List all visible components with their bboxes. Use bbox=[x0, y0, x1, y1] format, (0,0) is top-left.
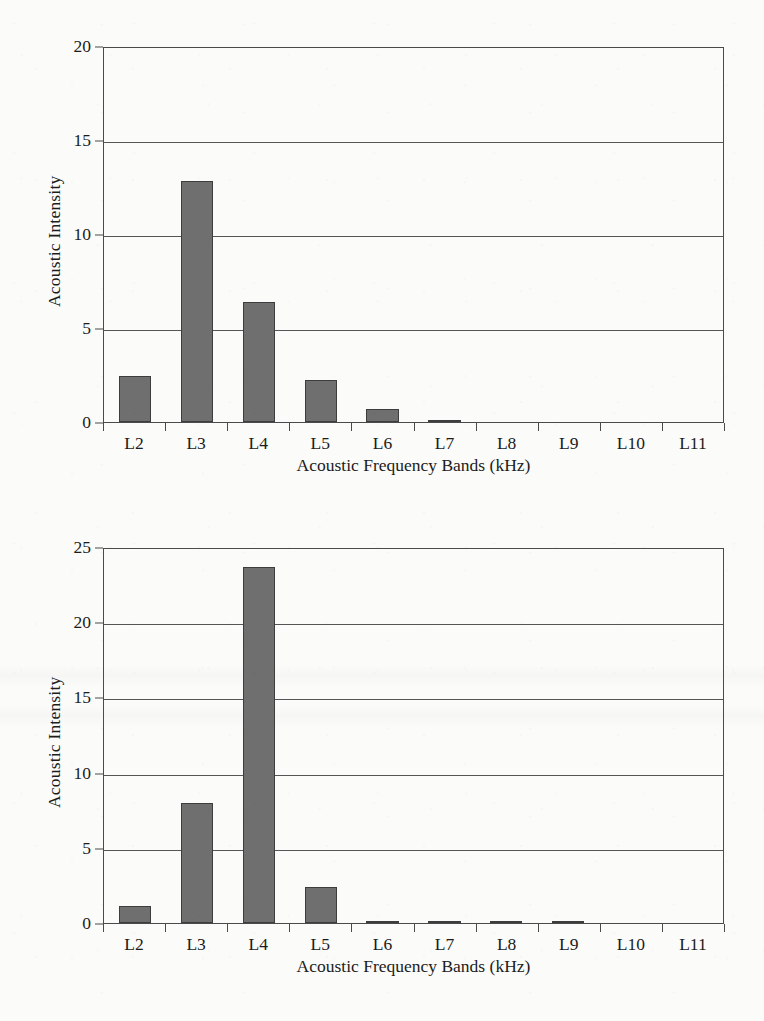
bar-l9[interactable] bbox=[552, 921, 584, 923]
bar-l3[interactable] bbox=[181, 803, 213, 923]
chart-panel-bottom: Acoustic Intensity0510152025L2L3L4L5L6L7… bbox=[0, 500, 764, 1021]
y-tick-mark bbox=[95, 47, 103, 48]
x-tick-mark bbox=[538, 924, 539, 932]
y-tick-mark bbox=[95, 698, 103, 699]
x-tick-mark bbox=[165, 924, 166, 932]
x-tick-mark bbox=[600, 423, 601, 431]
x-tick-label-l2: L2 bbox=[124, 936, 143, 954]
bar-slot bbox=[104, 549, 166, 923]
bar-slot bbox=[537, 549, 599, 923]
x-tick-mark bbox=[289, 924, 290, 932]
x-tick-label-l3: L3 bbox=[186, 435, 205, 453]
y-tick-label: 0 bbox=[82, 414, 91, 432]
x-tick-label-l4: L4 bbox=[249, 435, 268, 453]
chart-bottom: Acoustic Intensity0510152025L2L3L4L5L6L7… bbox=[0, 500, 764, 1021]
bar-slot bbox=[599, 48, 661, 422]
bar-l3[interactable] bbox=[181, 181, 213, 422]
y-axis-title: Acoustic Intensity bbox=[44, 176, 65, 307]
x-tick-label-l11: L11 bbox=[679, 936, 707, 954]
x-tick-mark bbox=[351, 423, 352, 431]
x-tick-label-l9: L9 bbox=[559, 435, 578, 453]
bar-slot bbox=[352, 48, 414, 422]
y-tick-mark bbox=[95, 141, 103, 142]
chart-panel-top: Acoustic Intensity05101520L2L3L4L5L6L7L8… bbox=[0, 0, 764, 500]
y-tick-mark bbox=[95, 773, 103, 774]
y-tick-label: 20 bbox=[74, 38, 92, 56]
x-tick-mark bbox=[538, 423, 539, 431]
y-tick-label: 5 bbox=[82, 320, 91, 338]
bar-slot bbox=[414, 549, 476, 923]
x-tick-mark bbox=[662, 423, 663, 431]
bar-slot bbox=[166, 549, 228, 923]
x-tick-label-l7: L7 bbox=[435, 435, 454, 453]
bar-l6[interactable] bbox=[366, 409, 398, 422]
x-tick-label-l7: L7 bbox=[435, 936, 454, 954]
bars-layer bbox=[104, 549, 723, 923]
x-tick-mark bbox=[600, 924, 601, 932]
bar-slot bbox=[104, 48, 166, 422]
bar-l4[interactable] bbox=[243, 567, 275, 923]
bar-slot bbox=[599, 549, 661, 923]
y-tick-mark bbox=[95, 848, 103, 849]
bar-slot bbox=[414, 48, 476, 422]
bar-l7[interactable] bbox=[428, 420, 460, 422]
plot-area bbox=[103, 548, 724, 924]
bar-l5[interactable] bbox=[305, 380, 337, 422]
bar-l8[interactable] bbox=[490, 921, 522, 923]
x-tick-mark bbox=[724, 423, 725, 431]
x-axis-title: Acoustic Frequency Bands (kHz) bbox=[103, 455, 724, 476]
y-tick-label: 5 bbox=[82, 840, 91, 858]
bar-l6[interactable] bbox=[366, 921, 398, 923]
x-tick-label-l11: L11 bbox=[679, 435, 707, 453]
x-tick-mark bbox=[662, 924, 663, 932]
x-tick-mark bbox=[351, 924, 352, 932]
y-tick-label: 10 bbox=[74, 226, 92, 244]
y-tick-label: 20 bbox=[74, 614, 92, 632]
x-tick-mark bbox=[227, 924, 228, 932]
y-tick-mark bbox=[95, 235, 103, 236]
bar-slot bbox=[228, 549, 290, 923]
x-tick-label-l8: L8 bbox=[497, 936, 516, 954]
x-tick-mark bbox=[414, 924, 415, 932]
y-tick-mark bbox=[95, 924, 103, 925]
x-tick-mark bbox=[476, 924, 477, 932]
bar-slot bbox=[228, 48, 290, 422]
bars-layer bbox=[104, 48, 723, 422]
x-tick-label-l6: L6 bbox=[373, 435, 392, 453]
x-tick-mark bbox=[476, 423, 477, 431]
x-tick-label-l9: L9 bbox=[559, 936, 578, 954]
bar-l7[interactable] bbox=[428, 921, 460, 923]
chart-top: Acoustic Intensity05101520L2L3L4L5L6L7L8… bbox=[0, 0, 764, 500]
bar-l2[interactable] bbox=[119, 376, 151, 422]
bar-l2[interactable] bbox=[119, 906, 151, 923]
x-tick-label-l10: L10 bbox=[617, 936, 645, 954]
y-tick-mark bbox=[95, 423, 103, 424]
bar-slot bbox=[475, 48, 537, 422]
bar-slot bbox=[661, 48, 723, 422]
bar-slot bbox=[537, 48, 599, 422]
bar-l5[interactable] bbox=[305, 887, 337, 923]
y-tick-mark bbox=[95, 329, 103, 330]
x-tick-label-l5: L5 bbox=[311, 936, 330, 954]
x-tick-mark bbox=[103, 423, 104, 431]
bar-slot bbox=[352, 549, 414, 923]
y-tick-label: 15 bbox=[74, 132, 92, 150]
y-tick-mark bbox=[95, 623, 103, 624]
x-tick-mark bbox=[414, 423, 415, 431]
x-tick-label-l10: L10 bbox=[617, 435, 645, 453]
x-tick-mark bbox=[289, 423, 290, 431]
bar-slot bbox=[290, 549, 352, 923]
y-tick-label: 0 bbox=[82, 915, 91, 933]
x-tick-mark bbox=[165, 423, 166, 431]
bar-slot bbox=[475, 549, 537, 923]
bar-slot bbox=[166, 48, 228, 422]
plot-area bbox=[103, 47, 724, 423]
x-tick-label-l4: L4 bbox=[249, 936, 268, 954]
x-tick-mark bbox=[724, 924, 725, 932]
y-tick-label: 25 bbox=[74, 539, 92, 557]
y-tick-mark bbox=[95, 548, 103, 549]
y-tick-label: 15 bbox=[74, 690, 92, 708]
bar-l4[interactable] bbox=[243, 302, 275, 422]
x-tick-label-l3: L3 bbox=[186, 936, 205, 954]
x-tick-mark bbox=[227, 423, 228, 431]
